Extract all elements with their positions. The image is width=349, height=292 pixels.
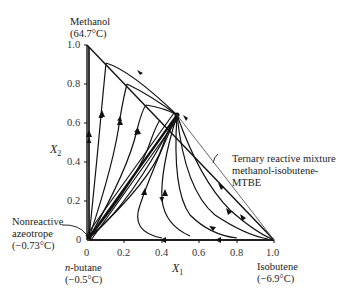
azeotrope-annotation: Nonreactive azeotrope (−0.73°C)	[12, 216, 63, 252]
ternary-annotation: Ternary reactive mixture methanol-isobut…	[232, 153, 336, 189]
azeotrope-point	[87, 235, 92, 240]
x-axis-label: X1	[172, 262, 183, 279]
x-tick-0: 0	[84, 247, 89, 258]
isobutene-label: Isobutene (−6.9°C)	[257, 261, 298, 285]
azeotrope-leader	[62, 225, 86, 234]
methanol-label: Methanol (64.7°C)	[70, 16, 110, 40]
x-tick-1.0: 1.0	[266, 247, 279, 258]
y-axis-label: X2	[50, 143, 61, 160]
x-tick-0.4: 0.4	[155, 247, 168, 258]
x-tick-0.6: 0.6	[192, 247, 205, 258]
y-tick-0.2: 0.2	[67, 195, 80, 206]
x-tick-0.2: 0.2	[117, 247, 130, 258]
y-tick-0: 0	[76, 234, 81, 245]
y-tick-0.8: 0.8	[67, 78, 80, 89]
nbutane-label: n-butane (−0.5°C)	[65, 262, 102, 286]
tick-marks	[84, 45, 274, 243]
y-tick-0.4: 0.4	[67, 156, 80, 167]
x-tick-0.8: 0.8	[230, 247, 243, 258]
y-tick-1.0: 1.0	[67, 39, 80, 50]
y-tick-0.6: 0.6	[67, 117, 80, 128]
